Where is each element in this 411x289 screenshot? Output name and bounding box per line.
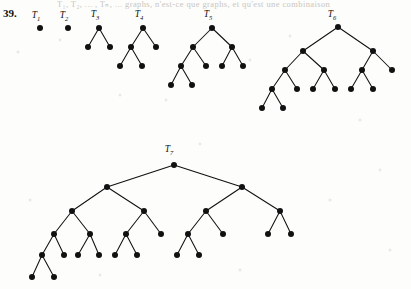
tree-node bbox=[29, 274, 35, 280]
tree-edge bbox=[144, 211, 161, 234]
tree-node bbox=[294, 86, 300, 92]
tree-label-subscript: 3 bbox=[95, 14, 100, 21]
tree-node bbox=[141, 208, 147, 214]
tree-node bbox=[310, 86, 316, 92]
figure-page: T₁, T₂, ... , Tₙ, ... graphs, n'est-ce q… bbox=[0, 0, 411, 289]
tree-node bbox=[282, 67, 288, 73]
tree-node bbox=[219, 63, 225, 69]
tree-edge bbox=[193, 47, 206, 66]
tree-node bbox=[85, 44, 91, 50]
tree-label-subscript: 4 bbox=[140, 14, 144, 21]
tree-edge bbox=[280, 211, 291, 234]
tree-edge bbox=[181, 66, 192, 85]
tree-node bbox=[171, 162, 177, 168]
tree-node bbox=[153, 44, 159, 50]
tree-t2: T2 bbox=[60, 10, 71, 31]
tree-t7: T7 bbox=[29, 144, 294, 280]
tree-edge bbox=[222, 47, 232, 66]
tree-edge bbox=[272, 70, 285, 89]
tree-node bbox=[51, 231, 57, 237]
tree-edge bbox=[285, 70, 297, 89]
tree-edge bbox=[177, 234, 188, 255]
paper-speck bbox=[29, 199, 32, 202]
tree-node bbox=[220, 231, 226, 237]
tree-edge bbox=[303, 51, 324, 70]
tree-edge bbox=[242, 187, 280, 211]
paper-speck bbox=[389, 249, 392, 252]
tree-edge bbox=[338, 27, 373, 51]
tree-node bbox=[269, 86, 275, 92]
tree-label-t2: T2 bbox=[60, 10, 69, 22]
tree-node bbox=[335, 24, 341, 30]
tree-node bbox=[288, 231, 294, 237]
tree-edge bbox=[54, 234, 64, 255]
tree-edge bbox=[362, 70, 373, 89]
paper-speck bbox=[59, 39, 62, 42]
tree-node bbox=[370, 48, 376, 54]
paper-speck bbox=[239, 269, 242, 272]
tree-edge bbox=[181, 47, 193, 66]
tree-node bbox=[178, 63, 184, 69]
tree-edge bbox=[351, 70, 362, 89]
tree-label-subscript: 2 bbox=[65, 15, 69, 22]
tree-edge bbox=[126, 234, 137, 255]
tree-node bbox=[277, 208, 283, 214]
tree-node bbox=[168, 82, 174, 88]
tree-node bbox=[196, 252, 202, 258]
tree-edge bbox=[42, 255, 54, 277]
tree-label-subscript: 1 bbox=[37, 15, 40, 22]
tree-node bbox=[370, 86, 376, 92]
tree-label-subscript: 5 bbox=[209, 14, 213, 21]
tree-edge bbox=[188, 211, 206, 234]
tree-edge bbox=[373, 51, 392, 70]
tree-node bbox=[51, 274, 57, 280]
tree-t3: T3 bbox=[85, 9, 113, 50]
tree-node bbox=[107, 44, 113, 50]
tree-node bbox=[348, 86, 354, 92]
tree-edge bbox=[285, 51, 303, 70]
tree-edge bbox=[232, 47, 243, 66]
tree-node bbox=[65, 25, 71, 31]
tree-edge bbox=[268, 211, 280, 234]
tree-node bbox=[96, 25, 102, 31]
tree-edge bbox=[131, 47, 142, 66]
tree-t6: T6 bbox=[259, 9, 395, 111]
tree-edge bbox=[324, 70, 335, 89]
tree-node bbox=[239, 184, 245, 190]
tree-edge bbox=[90, 234, 99, 255]
tree-label-subscript: 7 bbox=[170, 149, 174, 156]
tree-edge bbox=[72, 187, 107, 211]
tree-node bbox=[185, 231, 191, 237]
tree-node bbox=[61, 252, 67, 258]
tree-edge bbox=[72, 211, 90, 234]
tree-edge bbox=[262, 89, 272, 108]
tree-node bbox=[359, 67, 365, 73]
paper-speck bbox=[289, 35, 292, 38]
tree-edge bbox=[206, 187, 242, 211]
tree-sequence-figure: T1T2T3T4T5T6T7 bbox=[0, 0, 411, 289]
tree-edge bbox=[120, 47, 131, 66]
tree-edge bbox=[171, 66, 181, 85]
paper-speck bbox=[16, 50, 19, 53]
tree-node bbox=[203, 63, 209, 69]
tree-edge bbox=[212, 28, 232, 47]
tree-node bbox=[189, 82, 195, 88]
tree-node bbox=[203, 208, 209, 214]
tree-label-subscript: 6 bbox=[333, 14, 337, 21]
tree-label-t7: T7 bbox=[165, 144, 174, 156]
tree-node bbox=[240, 63, 246, 69]
paper-speck bbox=[165, 99, 168, 102]
paper-speck bbox=[358, 118, 361, 121]
tree-node bbox=[134, 252, 140, 258]
tree-node bbox=[190, 44, 196, 50]
tree-edge bbox=[32, 255, 42, 277]
tree-node bbox=[389, 67, 395, 73]
tree-edge bbox=[303, 27, 338, 51]
tree-label-t6: T6 bbox=[328, 9, 337, 21]
tree-edge bbox=[272, 89, 283, 108]
tree-node bbox=[75, 252, 81, 258]
paper-speck bbox=[199, 143, 202, 146]
tree-edge bbox=[193, 28, 212, 47]
tree-edge bbox=[126, 211, 144, 234]
tree-node bbox=[37, 25, 43, 31]
